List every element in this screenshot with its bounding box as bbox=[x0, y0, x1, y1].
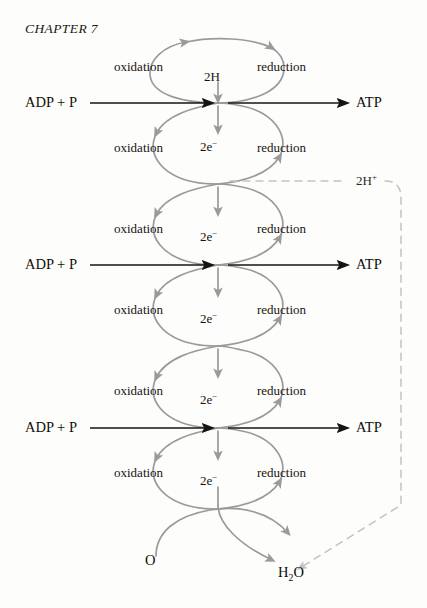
carrier-label-2e-3: 2e− bbox=[200, 312, 217, 325]
loop-2-reduction-arc bbox=[218, 156, 280, 184]
stage-label-reduction-2: reduction bbox=[257, 141, 306, 154]
substrate-label-adp-2: ADP + P bbox=[25, 257, 77, 272]
loop-2-oxidation-arc bbox=[156, 103, 218, 134]
carrier-label-2e-2: 2e− bbox=[200, 230, 217, 243]
loop-1-top-arc bbox=[186, 39, 272, 48]
stage-label-oxidation-1: oxidation bbox=[114, 60, 163, 73]
proton-shuttle-dashed-path bbox=[230, 181, 401, 568]
proton-label-2h-plus: 2H+ bbox=[356, 174, 377, 187]
stage-label-oxidation-4: oxidation bbox=[114, 303, 163, 316]
carrier-label-2h: 2H bbox=[204, 70, 220, 83]
water-label: H2O bbox=[278, 565, 304, 580]
diagram-page: CHAPTER 7 oxidation reduction oxidation … bbox=[0, 0, 427, 608]
carrier-label-2e-1: 2e− bbox=[200, 140, 217, 153]
stage-label-reduction-3: reduction bbox=[257, 222, 306, 235]
loop-5-oxidation-arc bbox=[156, 346, 218, 378]
stage-label-oxidation-5: oxidation bbox=[114, 384, 163, 397]
loop-4-oxidation-arc bbox=[156, 265, 218, 296]
stage-label-reduction-5: reduction bbox=[257, 384, 306, 397]
product-label-atp-1: ATP bbox=[356, 95, 382, 110]
loop-3-reduction-arc bbox=[218, 237, 280, 265]
oxygen-label: O bbox=[145, 553, 155, 568]
loop-6-oxidation-arc bbox=[156, 428, 218, 459]
stage-label-oxidation-2: oxidation bbox=[114, 141, 163, 154]
stage-label-reduction-4: reduction bbox=[257, 303, 306, 316]
electron-transport-diagram bbox=[0, 0, 427, 608]
loop-5-reduction-arc bbox=[218, 400, 280, 428]
substrate-label-adp-1: ADP + P bbox=[25, 95, 77, 110]
electron-to-water-curve bbox=[218, 505, 272, 560]
stage-label-reduction-6: reduction bbox=[257, 466, 306, 479]
product-label-atp-2: ATP bbox=[356, 257, 382, 272]
carrier-label-2e-4: 2e− bbox=[200, 393, 217, 406]
product-label-atp-3: ATP bbox=[356, 420, 382, 435]
stage-label-reduction-1: reduction bbox=[257, 60, 306, 73]
loop-1-reduction-arc bbox=[218, 48, 284, 103]
loop-3-oxidation-arc bbox=[156, 184, 218, 215]
oxygen-input-curve bbox=[156, 508, 288, 556]
substrate-label-adp-3: ADP + P bbox=[25, 420, 77, 435]
stage-label-oxidation-6: oxidation bbox=[114, 466, 163, 479]
loop-4-reduction-arc bbox=[218, 318, 280, 346]
loop-6-reduction-arc bbox=[218, 481, 280, 509]
stage-label-oxidation-3: oxidation bbox=[114, 222, 163, 235]
carrier-label-2e-5: 2e− bbox=[200, 474, 217, 487]
running-head: CHAPTER 7 bbox=[25, 22, 98, 36]
